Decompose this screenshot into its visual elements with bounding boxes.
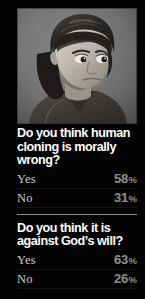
poll-results-2: Yes 63% No 26% [17,251,137,289]
result-row: Yes 58% [17,170,137,189]
section-divider [17,214,137,215]
result-number: 58 [114,171,128,186]
result-label: No [17,189,33,207]
result-value: 58% [114,170,137,189]
result-number: 31 [114,190,128,205]
portrait-photo-image [17,8,137,124]
result-row: Yes 63% [17,251,137,270]
poll-question-1: Do you think human cloning is morally wr… [17,127,137,168]
percent-sign: % [129,193,137,204]
result-value: 63% [114,251,137,270]
result-label: No [17,270,33,288]
result-number: 63 [114,252,128,267]
poll-content: Do you think human cloning is morally wr… [17,127,137,289]
percent-sign: % [129,255,137,266]
poll-block-2: Do you think it is against God’s will? Y… [17,222,137,289]
portrait-photo [17,8,137,124]
poll-results-1: Yes 58% No 31% [17,170,137,208]
result-value: 31% [114,189,137,208]
poll-infographic-card: Do you think human cloning is morally wr… [0,0,145,299]
poll-block-1: Do you think human cloning is morally wr… [17,127,137,208]
result-label: Yes [17,251,36,269]
result-number: 26 [114,271,128,286]
percent-sign: % [129,174,137,185]
poll-question-2: Do you think it is against God’s will? [17,222,137,249]
result-label: Yes [17,170,36,188]
result-row: No 26% [17,270,137,289]
result-value: 26% [114,270,137,289]
percent-sign: % [129,274,137,285]
result-row: No 31% [17,189,137,208]
